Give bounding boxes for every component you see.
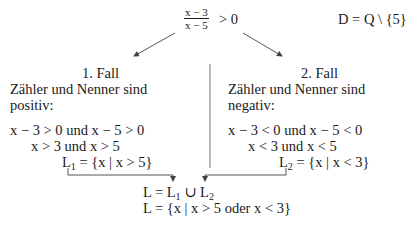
case2-condition2: x < 3 und x < 5	[248, 138, 337, 154]
case2-condition1: x − 3 < 0 und x − 5 < 0	[228, 122, 362, 138]
case1-condition1: x − 3 > 0 und x − 5 > 0	[10, 122, 144, 138]
case2-line1: Zähler und Nenner sind	[228, 81, 365, 97]
case2-title: 2. Fall	[301, 65, 338, 81]
case1-line1: Zähler und Nenner sind	[10, 81, 147, 97]
domain-definition: D = Q \ {5}	[338, 11, 407, 27]
case2-line2: negativ:	[228, 97, 275, 113]
case1-solution: L1 = {x | x > 5}	[62, 154, 153, 170]
fraction-denominator: x − 5	[184, 19, 209, 31]
case1-title: 1. Fall	[82, 65, 119, 81]
arrow-right	[243, 33, 282, 56]
result-final: L = {x | x > 5 oder x < 3}	[143, 200, 291, 216]
inequality-sign: > 0	[219, 11, 238, 28]
main-fraction: x − 3 x − 5	[184, 6, 209, 31]
arrow-left	[134, 33, 175, 56]
connector-l2	[205, 168, 286, 181]
fraction-numerator: x − 3	[184, 6, 209, 19]
case1-condition2: x > 3 und x > 5	[31, 138, 120, 154]
case1-line2: positiv:	[10, 97, 54, 113]
result-union: L = L1 ∪ L2	[143, 184, 214, 200]
case2-solution: L2 = {x | x < 3}	[279, 154, 370, 170]
